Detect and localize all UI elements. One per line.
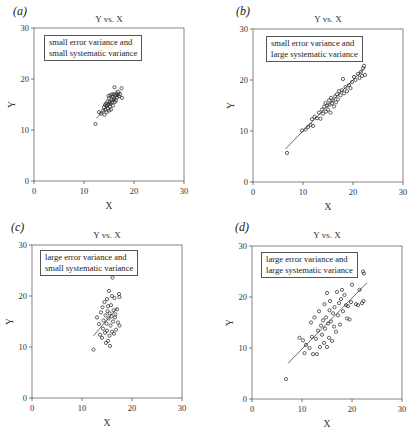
- data-point: [339, 297, 342, 300]
- data-point: [320, 108, 323, 111]
- data-point: [323, 303, 326, 306]
- data-point: [329, 320, 332, 323]
- y-tick-label: 0: [23, 393, 27, 403]
- data-point: [314, 337, 317, 340]
- data-point: [114, 313, 117, 316]
- y-axis-label: Y: [226, 102, 236, 109]
- y-tick-label: 10: [239, 343, 248, 353]
- x-tick-label: 10: [80, 186, 89, 196]
- data-point: [321, 112, 324, 115]
- panel-d: (d) Y vs. X 01020300102030XY large error…: [205, 216, 410, 432]
- data-point: [337, 302, 340, 305]
- data-point: [339, 94, 342, 97]
- data-point: [341, 77, 344, 80]
- data-point: [322, 341, 325, 344]
- annotation-line-1: large error variance and: [45, 252, 133, 263]
- data-point: [333, 306, 336, 309]
- data-point: [349, 301, 352, 304]
- data-point: [318, 345, 321, 348]
- y-tick-label: 0: [244, 177, 248, 187]
- x-axis-label: X: [104, 418, 111, 428]
- data-point: [340, 288, 343, 291]
- data-point: [350, 283, 353, 286]
- annotation-line-1: small error variance and: [271, 38, 358, 49]
- data-point: [108, 312, 111, 315]
- data-point: [113, 86, 116, 89]
- data-point: [310, 118, 313, 121]
- data-point: [92, 348, 95, 351]
- data-point: [108, 334, 111, 337]
- x-axis-label: X: [324, 419, 331, 429]
- data-point: [103, 301, 106, 304]
- data-point: [321, 319, 324, 322]
- x-tick-label: 0: [250, 404, 254, 414]
- data-point: [106, 305, 109, 308]
- x-tick-label: 0: [251, 187, 255, 197]
- data-point: [94, 122, 97, 125]
- annotation-line-2: large systematic variance: [271, 49, 358, 60]
- data-point: [335, 93, 338, 96]
- x-axis-label: X: [106, 201, 113, 211]
- y-tick-label: 20: [19, 291, 28, 301]
- data-point: [109, 324, 112, 327]
- y-tick-label: 30: [19, 240, 28, 250]
- data-point: [303, 352, 306, 355]
- data-point: [316, 329, 319, 332]
- data-point: [106, 339, 109, 342]
- data-point: [332, 325, 335, 328]
- x-tick-label: 30: [398, 404, 407, 414]
- x-tick-label: 0: [30, 403, 34, 413]
- y-tick-label: 20: [239, 292, 248, 302]
- data-point: [105, 297, 108, 300]
- panel-d-annotation: large error variance and large systemati…: [261, 252, 358, 278]
- data-point: [360, 74, 363, 77]
- data-point: [334, 330, 337, 333]
- data-point: [118, 324, 121, 327]
- data-point: [319, 324, 322, 327]
- data-point: [341, 310, 344, 313]
- data-point: [95, 316, 98, 319]
- trendline: [286, 67, 366, 149]
- y-axis-label: Y: [7, 101, 17, 108]
- annotation-line-2: small systematic variance: [49, 48, 137, 59]
- data-point: [117, 292, 120, 295]
- annotation-line-1: large error variance and: [266, 254, 353, 265]
- x-tick-label: 10: [299, 187, 308, 197]
- data-point: [310, 335, 313, 338]
- data-point: [319, 117, 322, 120]
- data-point: [343, 293, 346, 296]
- data-point: [317, 111, 320, 114]
- data-point: [352, 75, 355, 78]
- y-tick-label: 30: [240, 24, 249, 34]
- data-point: [308, 346, 311, 349]
- x-tick-label: 10: [298, 404, 307, 414]
- y-axis-label: Y: [5, 318, 15, 325]
- y-tick-label: 20: [21, 74, 30, 84]
- x-axis-label: X: [325, 202, 332, 212]
- data-point: [298, 336, 301, 339]
- x-tick-label: 30: [180, 186, 189, 196]
- data-point: [108, 344, 111, 347]
- y-tick-label: 30: [21, 23, 30, 33]
- panel-c-plot: 01020300102030XY: [0, 216, 205, 432]
- data-point: [284, 378, 287, 381]
- panel-d-plot: 01020300102030XY: [205, 216, 411, 432]
- data-point: [336, 314, 339, 317]
- data-point: [329, 111, 332, 114]
- panel-a-annotation: small error variance and small systemati…: [44, 35, 142, 61]
- annotation-line-1: small error variance and: [49, 37, 137, 48]
- x-tick-label: 10: [78, 403, 87, 413]
- data-point: [317, 310, 320, 313]
- data-point: [99, 311, 102, 314]
- panel-c-annotation: large error variance and small systemati…: [40, 250, 138, 276]
- data-point: [327, 336, 330, 339]
- panel-c: (c) Y vs. X 01020300102030XY large error…: [0, 216, 205, 432]
- data-point: [98, 333, 101, 336]
- data-point: [324, 316, 327, 319]
- x-tick-label: 20: [348, 404, 357, 414]
- data-point: [328, 309, 331, 312]
- data-point: [120, 96, 123, 99]
- annotation-line-2: small systematic variance: [45, 263, 133, 274]
- data-point: [349, 87, 352, 90]
- y-tick-label: 10: [21, 125, 30, 135]
